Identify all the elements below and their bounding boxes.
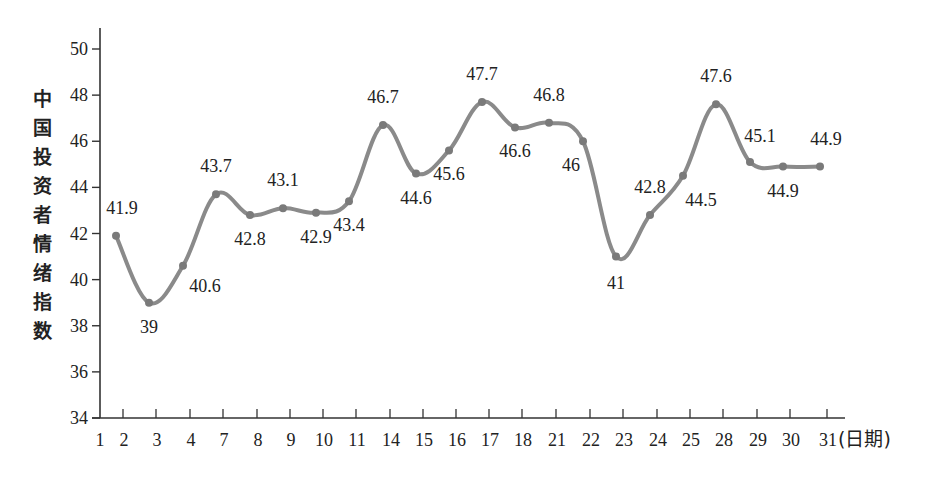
x-axis-title: (日期): [838, 428, 891, 450]
data-label: 41.9: [106, 198, 138, 218]
data-point: [246, 211, 254, 219]
data-label: 42.9: [300, 227, 332, 247]
x-tick-label: 21: [548, 430, 566, 450]
data-labels: 41.93940.643.742.843.142.943.446.744.645…: [106, 64, 842, 337]
y-tick-label: 46: [70, 131, 88, 151]
x-tick-label: 25: [682, 430, 700, 450]
data-label: 47.7: [466, 64, 498, 84]
data-point: [279, 204, 287, 212]
x-tick-label: 24: [649, 430, 667, 450]
data-point: [646, 211, 654, 219]
data-point: [445, 146, 453, 154]
data-point: [579, 137, 587, 145]
y-axis-ticks: 343638404244464850: [70, 39, 100, 428]
x-tick-label: 9: [287, 430, 296, 450]
data-label: 44.9: [810, 129, 842, 149]
x-tick-label: 4: [187, 430, 196, 450]
data-point: [746, 158, 754, 166]
x-tick-label: 8: [254, 430, 263, 450]
data-label: 45.1: [744, 126, 776, 146]
x-axis-ticks: 123478910111415161718212223242528293031: [96, 409, 838, 450]
data-point: [212, 190, 220, 198]
data-label: 44.9: [767, 181, 799, 201]
y-tick-label: 34: [70, 408, 88, 428]
x-tick-label: 1: [96, 430, 105, 450]
x-tick-label: 30: [782, 430, 800, 450]
data-point: [478, 98, 486, 106]
data-point: [612, 253, 620, 261]
y-tick-label: 48: [70, 85, 88, 105]
x-tick-label: 2: [120, 430, 129, 450]
x-tick-label: 3: [153, 430, 162, 450]
data-label: 42.8: [634, 177, 666, 197]
data-label: 45.6: [433, 164, 465, 184]
data-point: [679, 172, 687, 180]
data-label: 42.8: [234, 229, 266, 249]
data-label: 43.7: [200, 156, 232, 176]
y-tick-label: 50: [70, 39, 88, 59]
y-tick-label: 40: [70, 270, 88, 290]
x-tick-label: 18: [514, 430, 532, 450]
data-point: [545, 119, 553, 127]
data-label: 46: [562, 155, 580, 175]
data-point: [779, 163, 787, 171]
x-tick-label: 11: [348, 430, 365, 450]
data-label: 40.6: [189, 276, 221, 296]
y-tick-label: 38: [70, 316, 88, 336]
data-point: [145, 299, 153, 307]
data-point: [511, 123, 519, 131]
data-label: 43.4: [333, 215, 365, 235]
data-point: [112, 232, 120, 240]
x-tick-label: 7: [220, 430, 229, 450]
x-tick-label: 17: [481, 430, 499, 450]
data-point: [712, 100, 720, 108]
data-point: [312, 209, 320, 217]
axes: [92, 28, 845, 418]
x-tick-label: 31: [819, 430, 837, 450]
y-tick-label: 44: [70, 177, 88, 197]
data-label: 46.8: [533, 85, 565, 105]
x-tick-label: 29: [749, 430, 767, 450]
x-tick-label: 16: [448, 430, 466, 450]
y-tick-label: 42: [70, 224, 88, 244]
data-label: 41: [607, 273, 625, 293]
data-label: 44.6: [400, 188, 432, 208]
line-chart: 343638404244464850 123478910111415161718…: [0, 0, 929, 495]
data-point: [345, 197, 353, 205]
data-label: 43.1: [267, 170, 299, 190]
x-tick-label: 22: [582, 430, 600, 450]
x-tick-label: 10: [315, 430, 333, 450]
y-tick-label: 36: [70, 362, 88, 382]
data-point: [179, 262, 187, 270]
data-label: 46.7: [367, 87, 399, 107]
data-label: 46.6: [499, 141, 531, 161]
data-label: 44.5: [685, 190, 717, 210]
x-tick-label: 23: [615, 430, 633, 450]
data-point: [379, 121, 387, 129]
data-point: [816, 163, 824, 171]
data-point: [412, 170, 420, 178]
x-tick-label: 28: [715, 430, 733, 450]
data-label: 39: [140, 317, 158, 337]
x-tick-label: 15: [415, 430, 433, 450]
x-tick-label: 14: [382, 430, 400, 450]
data-label: 47.6: [700, 66, 732, 86]
